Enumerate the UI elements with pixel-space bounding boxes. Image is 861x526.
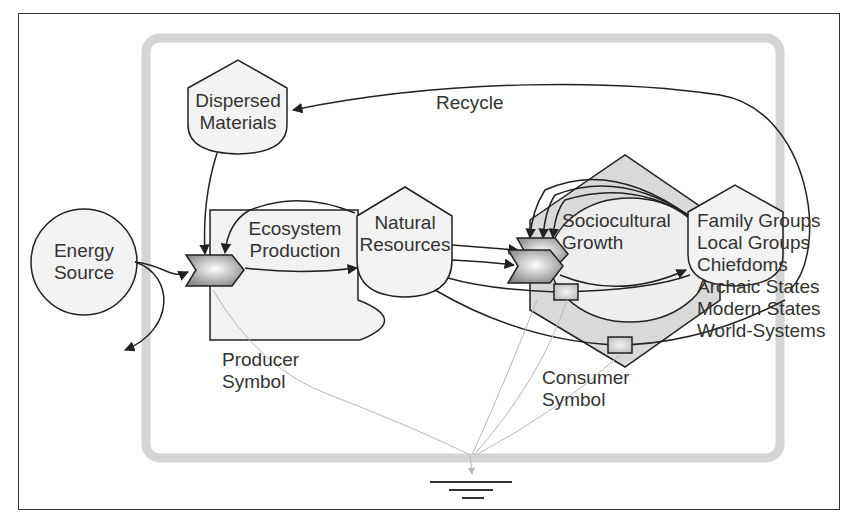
sociocultural-growth-line1: Sociocultural: [562, 210, 671, 232]
energy-source-label: Energy Source: [50, 240, 118, 284]
producer-gate-icon: [186, 255, 244, 286]
heat-sink-icon: [430, 482, 512, 498]
ecosystem-production-line1: Ecosystem: [240, 218, 350, 240]
consumer-symbol-label: Consumer Symbol: [542, 367, 630, 411]
society-archaic-states: Archaic States: [697, 276, 825, 298]
producer-symbol-line2: Symbol: [222, 371, 299, 393]
energy-source-line2: Source: [50, 262, 118, 284]
ecosystem-production-line2: Production: [240, 240, 350, 262]
society-family-groups: Family Groups: [697, 210, 825, 232]
consumer-symbol-line1: Consumer: [542, 367, 630, 389]
interaction-box-icon: [554, 284, 578, 300]
dispersed-materials-line2: Materials: [186, 112, 290, 134]
sociocultural-growth-label: Sociocultural Growth: [562, 210, 671, 254]
society-local-groups: Local Groups: [697, 232, 825, 254]
natural-resources-label: Natural Resources: [355, 212, 455, 256]
ecosystem-production-label: Ecosystem Production: [240, 218, 350, 262]
producer-symbol-label: Producer Symbol: [222, 349, 299, 393]
consumer-symbol-line2: Symbol: [542, 389, 630, 411]
energy-source-line1: Energy: [50, 240, 118, 262]
recycle-label: Recycle: [436, 92, 504, 114]
dispersed-materials-line1: Dispersed: [186, 90, 290, 112]
sociocultural-growth-line2: Growth: [562, 232, 671, 254]
society-chiefdoms: Chiefdoms: [697, 254, 825, 276]
dispersed-materials-label: Dispersed Materials: [186, 90, 290, 134]
interaction-box-icon: [608, 337, 632, 353]
natural-resources-line1: Natural: [355, 212, 455, 234]
society-world-systems: World-Systems: [697, 320, 825, 342]
natural-resources-line2: Resources: [355, 234, 455, 256]
producer-symbol-line1: Producer: [222, 349, 299, 371]
societies-list: Family Groups Local Groups Chiefdoms Arc…: [697, 210, 825, 342]
society-modern-states: Modern States: [697, 298, 825, 320]
